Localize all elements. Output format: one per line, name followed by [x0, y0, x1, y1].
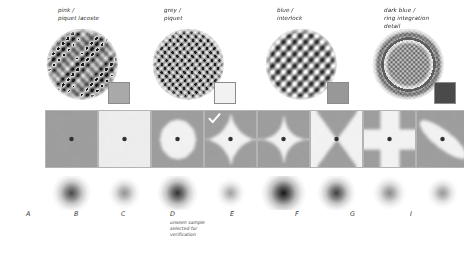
- color-swatch: [108, 82, 130, 104]
- response-spot-e: [257, 176, 310, 210]
- shape-tile-c[interactable]: [151, 110, 204, 168]
- sample-body: [24, 26, 140, 106]
- label-letter: G: [350, 210, 414, 218]
- figure-root: pink / piquet lacostegrey / piquetblue /…: [0, 0, 464, 256]
- sample-interlock: blue / interlock: [243, 0, 359, 106]
- label-note: unseen sample selected for verification: [170, 220, 234, 239]
- column-label-g: G: [350, 210, 414, 218]
- sample-body: [350, 26, 464, 106]
- color-swatch: [434, 82, 456, 104]
- label-letter: E: [230, 210, 294, 218]
- column-label-d: Dunseen sample selected for verification: [170, 210, 234, 239]
- label-letter: D: [170, 210, 234, 218]
- response-spot-a: [45, 176, 98, 210]
- shape-tile-i[interactable]: [416, 110, 464, 168]
- sample-caption: pink / piquet lacoste: [58, 6, 99, 22]
- response-spot-f: [310, 176, 363, 210]
- shape-tile-b[interactable]: [98, 110, 151, 168]
- label-row: ABCDunseen sample selected for verificat…: [0, 210, 464, 256]
- shape-tile-d[interactable]: [204, 110, 257, 168]
- shape-tile-e[interactable]: [257, 110, 310, 168]
- tile-row: [0, 110, 464, 172]
- spot-row: [0, 176, 464, 210]
- response-spot-c: [151, 176, 204, 210]
- response-spot-i: [416, 176, 464, 210]
- shape-tile-f[interactable]: [310, 110, 363, 168]
- sample-piquet-lacoste: pink / piquet lacoste: [24, 0, 140, 106]
- label-letter: I: [410, 210, 464, 218]
- sample-body: [130, 26, 246, 106]
- shape-tile-g[interactable]: [363, 110, 416, 168]
- shape-tile-a[interactable]: [45, 110, 98, 168]
- sample-caption: grey / piquet: [164, 6, 182, 22]
- column-label-i: I: [410, 210, 464, 218]
- sample-body: [243, 26, 359, 106]
- sample-row: pink / piquet lacostegrey / piquetblue /…: [0, 0, 464, 106]
- color-swatch: [214, 82, 236, 104]
- sample-ring-integration: dark blue / ring integration detail: [350, 0, 464, 106]
- color-swatch: [327, 82, 349, 104]
- column-label-e: E: [230, 210, 294, 218]
- response-spot-d: [204, 176, 257, 210]
- sample-piquet: grey / piquet: [130, 0, 246, 106]
- response-spot-b: [98, 176, 151, 210]
- sample-caption: blue / interlock: [277, 6, 302, 22]
- response-spot-g: [363, 176, 416, 210]
